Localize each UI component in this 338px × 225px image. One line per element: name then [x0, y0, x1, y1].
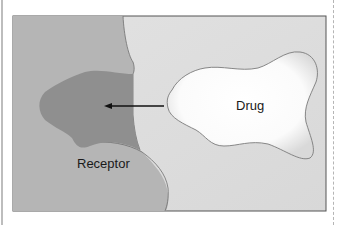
drug-receptor-diagram — [0, 0, 338, 225]
drug-label: Drug — [236, 98, 264, 113]
receptor-label: Receptor — [77, 156, 130, 171]
